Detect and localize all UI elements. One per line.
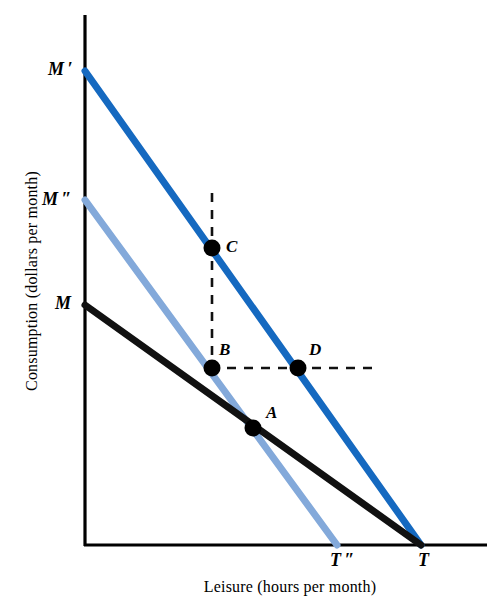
data-point-a bbox=[245, 420, 262, 437]
chart-canvas bbox=[0, 0, 487, 597]
figure-root: Consumption (dollars per month) Leisure … bbox=[0, 0, 487, 597]
point-label-c: C bbox=[226, 238, 237, 255]
intercept-label-m-double-prime: M ″ bbox=[42, 190, 72, 208]
intercept-label-t: T bbox=[418, 551, 429, 569]
data-point-markers-group bbox=[204, 240, 307, 437]
x-axis-title: Leisure (hours per month) bbox=[93, 578, 487, 596]
intercept-label-m-prime: M ′ bbox=[48, 60, 73, 78]
point-label-b: B bbox=[219, 341, 230, 358]
budget-lines-group bbox=[85, 71, 421, 545]
intercept-label-m: M bbox=[55, 294, 71, 312]
data-point-b bbox=[204, 360, 221, 377]
budget-line-m-prime bbox=[85, 71, 421, 545]
y-axis-title: Consumption (dollars per month) bbox=[23, 131, 41, 431]
data-point-d bbox=[290, 360, 307, 377]
point-label-a: A bbox=[266, 404, 277, 421]
data-point-c bbox=[204, 240, 221, 257]
point-label-d: D bbox=[309, 341, 321, 358]
intercept-label-t-double-prime: T ″ bbox=[330, 551, 355, 569]
